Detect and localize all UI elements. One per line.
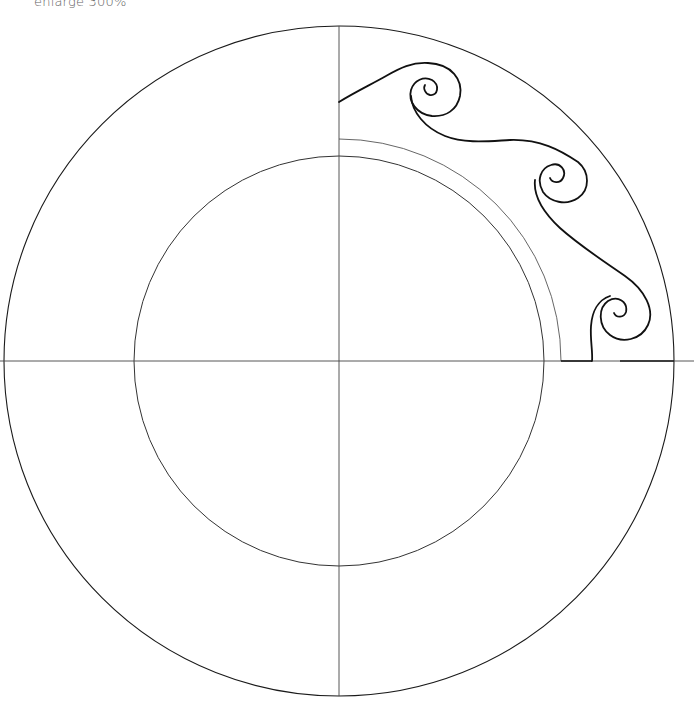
circular-template-drawing — [0, 0, 694, 722]
wave-spiral-2 — [411, 96, 587, 202]
wave-spiral-motif — [339, 63, 650, 361]
wave-tail — [591, 296, 610, 361]
inner-guide-arc — [339, 139, 561, 361]
wave-spiral-1 — [339, 63, 460, 116]
